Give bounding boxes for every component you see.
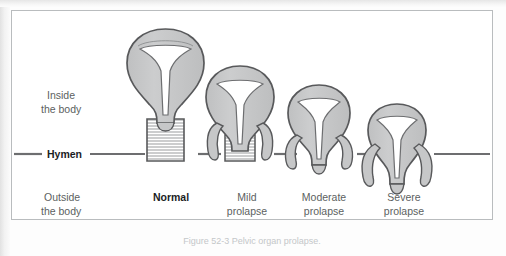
stage-label-mild-line2: prolapse — [207, 205, 287, 218]
stage-label-moderate-line1: Moderate — [279, 191, 369, 204]
scan-top-edge-shadow — [0, 0, 506, 7]
label-inside-the-body-line1: Inside — [47, 89, 75, 102]
label-inside-the-body-line2: the body — [41, 103, 81, 116]
stage-severe-anatomy — [362, 104, 432, 194]
figure-frame: Inside the body Hymen Outside the body N… — [11, 10, 493, 220]
pelvic-organ-prolapse-diagram — [12, 11, 492, 219]
scanned-page: Inside the body Hymen Outside the body N… — [0, 0, 506, 256]
scan-left-edge-shadow — [0, 0, 10, 256]
stage-label-normal: Normal — [131, 191, 211, 204]
label-outside-the-body-line2: the body — [41, 205, 81, 218]
figure-caption: Figure 52-3 Pelvic organ prolapse. — [11, 236, 493, 256]
stage-label-moderate-line2: prolapse — [279, 205, 369, 218]
stage-label-mild-line1: Mild — [207, 191, 287, 204]
stage-mild-anatomy — [206, 38, 274, 162]
stage-label-severe-line1: Severe — [359, 191, 449, 204]
label-outside-the-body-line1: Outside — [44, 191, 80, 204]
stage-moderate-anatomy — [285, 85, 352, 174]
label-hymen: Hymen — [47, 148, 82, 161]
stage-normal-anatomy — [127, 29, 204, 161]
stage-label-severe-line2: prolapse — [359, 205, 449, 218]
